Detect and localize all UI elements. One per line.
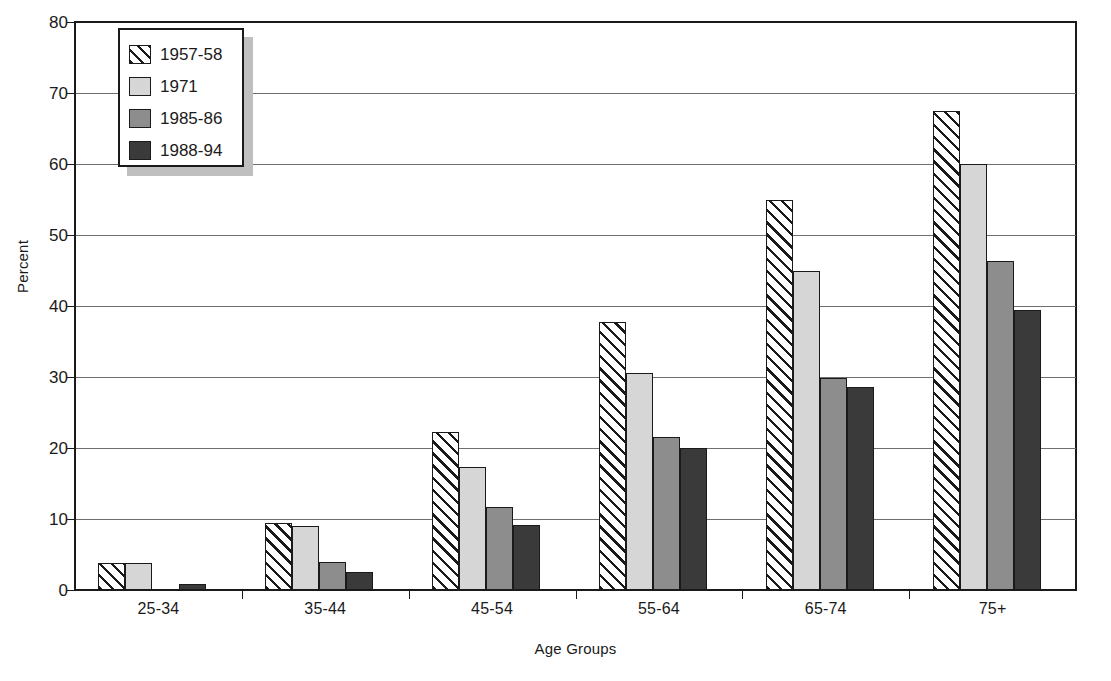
bar xyxy=(459,467,486,590)
y-axis-tick-mark xyxy=(67,235,76,236)
bar xyxy=(98,563,125,590)
x-axis-title: Age Groups xyxy=(75,640,1076,657)
y-axis-tick-label: 40 xyxy=(28,298,68,315)
bar xyxy=(766,200,793,591)
x-axis-tick-mark xyxy=(242,590,243,599)
bar xyxy=(432,432,459,590)
y-axis-tick-mark xyxy=(67,22,76,23)
legend-item-label: 1988-94 xyxy=(160,142,222,159)
bar xyxy=(513,525,540,590)
gridline xyxy=(75,377,1076,378)
x-axis-tick-label: 75+ xyxy=(979,600,1007,618)
bar xyxy=(1014,310,1041,590)
y-axis-tick-label: 20 xyxy=(28,440,68,457)
x-axis-tick-mark xyxy=(742,590,743,599)
x-axis-tick-label: 45-54 xyxy=(471,600,513,618)
legend-swatch-icon xyxy=(129,45,151,64)
legend-item: 1971 xyxy=(129,71,242,101)
x-axis-tick-mark xyxy=(576,590,577,599)
bar xyxy=(793,271,820,591)
bar xyxy=(599,322,626,590)
y-axis-tick-mark xyxy=(67,93,76,94)
chart-legend: 1957-5819711985-861988-94 xyxy=(118,28,244,167)
bar xyxy=(346,572,373,590)
x-axis-tick-label: 65-74 xyxy=(805,600,847,618)
bar xyxy=(680,448,707,590)
y-axis-tick-mark xyxy=(67,519,76,520)
bar xyxy=(820,378,847,590)
y-axis-tick-label: 0 xyxy=(28,582,68,599)
bar xyxy=(847,387,874,590)
legend-swatch-icon xyxy=(129,77,151,96)
legend-item-label: 1971 xyxy=(160,78,198,95)
legend-swatch-icon xyxy=(129,141,151,160)
legend-swatch-icon xyxy=(129,109,151,128)
plot-border-top xyxy=(75,21,1076,23)
y-axis-tick-mark xyxy=(67,377,76,378)
x-axis-tick-mark xyxy=(409,590,410,599)
bar xyxy=(319,562,346,590)
y-axis-tick-label: 80 xyxy=(28,14,68,31)
gridline xyxy=(75,448,1076,449)
x-axis-tick-label: 55-64 xyxy=(638,600,680,618)
bar xyxy=(626,373,653,590)
gridline xyxy=(75,235,1076,236)
bar xyxy=(292,526,319,590)
bar xyxy=(265,523,292,590)
legend-item-label: 1985-86 xyxy=(160,110,222,127)
y-axis-tick-mark xyxy=(67,448,76,449)
legend-item-label: 1957-58 xyxy=(160,46,222,63)
bar xyxy=(179,584,206,590)
x-axis-tick-label: 35-44 xyxy=(304,600,346,618)
bar xyxy=(987,261,1014,590)
bar xyxy=(653,437,680,590)
y-axis-tick-label: 10 xyxy=(28,511,68,528)
legend-item: 1985-86 xyxy=(129,103,242,133)
gridline xyxy=(75,306,1076,307)
bar xyxy=(486,507,513,590)
legend-item: 1957-58 xyxy=(129,39,242,69)
bar-chart: Percent 01020304050607080 25-3435-4445-5… xyxy=(0,0,1111,681)
bar xyxy=(125,563,152,590)
gridline xyxy=(75,519,1076,520)
y-axis-tick-label: 30 xyxy=(28,369,68,386)
y-axis-tick-mark xyxy=(67,164,76,165)
y-axis-tick-mark xyxy=(67,590,76,591)
x-axis-tick-mark xyxy=(909,590,910,599)
y-axis-tick-label: 50 xyxy=(28,227,68,244)
bar xyxy=(960,164,987,590)
y-axis-tick-label: 60 xyxy=(28,156,68,173)
y-axis-tick-label: 70 xyxy=(28,85,68,102)
y-axis-tick-labels: 01020304050607080 xyxy=(28,0,68,681)
bar xyxy=(933,111,960,590)
y-axis-tick-mark xyxy=(67,306,76,307)
x-axis-tick-label: 25-34 xyxy=(137,600,179,618)
legend-item: 1988-94 xyxy=(129,135,242,165)
